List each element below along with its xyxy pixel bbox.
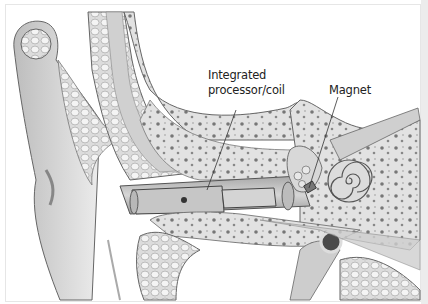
- label-line: Integrated: [208, 68, 285, 83]
- label-line: processor/coil: [208, 83, 285, 98]
- label-magnet: Magnet: [329, 83, 371, 98]
- label-line: Magnet: [329, 83, 371, 98]
- illustration-stage: Integrated processor/coil Magnet: [0, 0, 428, 304]
- ear-anatomy-illustration: [0, 0, 428, 304]
- label-integrated-processor-coil: Integrated processor/coil: [208, 68, 285, 98]
